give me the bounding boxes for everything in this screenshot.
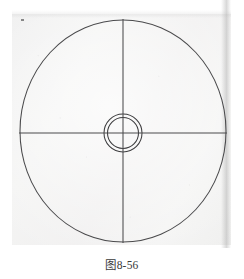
figure-page: 图8-56 — [0, 0, 244, 279]
technical-drawing — [0, 0, 244, 279]
figure-caption: 图8-56 — [0, 256, 244, 272]
